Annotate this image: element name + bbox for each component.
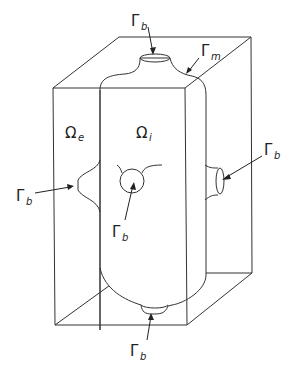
svg-text:b: b: [140, 351, 146, 362]
label-gamma-b-left: Γ b: [16, 187, 32, 207]
label-gamma-b-bottom: Γ b: [130, 342, 146, 362]
label-gamma-b-right: Γ b: [264, 141, 280, 161]
vessel-interior-domain: [100, 54, 206, 330]
svg-text:e: e: [78, 132, 84, 143]
svg-text:b: b: [122, 232, 128, 243]
label-omega-e: Ω e: [65, 124, 84, 143]
svg-text:b: b: [26, 196, 32, 207]
svg-text:i: i: [149, 132, 152, 143]
label-gamma-b-top: Γ b: [131, 12, 147, 32]
svg-text:Ω: Ω: [136, 124, 147, 142]
svg-text:Ω: Ω: [65, 124, 76, 142]
svg-text:Γ: Γ: [16, 187, 25, 205]
svg-text:Γ: Γ: [131, 12, 140, 30]
svg-text:m: m: [211, 51, 221, 62]
svg-text:Γ: Γ: [201, 42, 210, 60]
label-gamma-m: Γ m: [201, 42, 221, 62]
svg-text:b: b: [141, 21, 147, 32]
left-boundary-nozzle: [78, 160, 100, 212]
right-boundary-nozzle: [205, 165, 224, 200]
domain-diagram: Γ b Γ m Ω e Ω i Γ b Γ b Γ b Γ b: [0, 0, 291, 372]
svg-text:Γ: Γ: [130, 342, 139, 360]
svg-text:Γ: Γ: [264, 141, 273, 159]
svg-text:b: b: [274, 150, 280, 161]
svg-text:Γ: Γ: [112, 223, 121, 241]
